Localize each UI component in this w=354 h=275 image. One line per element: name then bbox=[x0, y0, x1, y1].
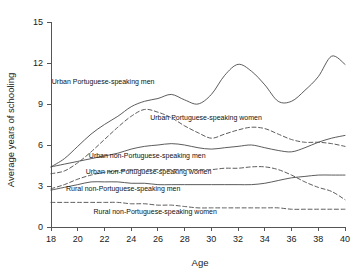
x-tick-label: 30 bbox=[206, 234, 216, 244]
chart-figure: 03691215 182022242628303234363840 Urban … bbox=[0, 0, 354, 275]
line-chart: 03691215 182022242628303234363840 Urban … bbox=[0, 0, 354, 275]
series-annotation-4: Rural non-Portuguese-speaking men bbox=[66, 185, 181, 193]
y-tick-label: 15 bbox=[33, 17, 43, 27]
x-tick-label: 38 bbox=[313, 234, 323, 244]
x-tick-label: 24 bbox=[126, 234, 136, 244]
y-axis-title: Average years of schooling bbox=[5, 73, 16, 187]
series-line-0 bbox=[51, 56, 345, 167]
x-tick-label: 22 bbox=[99, 234, 109, 244]
x-tick-label: 32 bbox=[233, 234, 243, 244]
x-tick-label: 26 bbox=[153, 234, 163, 244]
x-tick-label: 34 bbox=[260, 234, 270, 244]
y-tick-label: 0 bbox=[38, 222, 43, 232]
series-annotation-3: Urban non-Portuguese-speaking women bbox=[86, 168, 212, 176]
x-tick-label: 28 bbox=[180, 234, 190, 244]
x-tick-label: 20 bbox=[73, 234, 83, 244]
y-tick-label: 3 bbox=[38, 181, 43, 191]
y-tick-label: 9 bbox=[38, 99, 43, 109]
x-tick-label: 18 bbox=[46, 234, 56, 244]
series-annotation-2: Urban non-Portuguese-speaking men bbox=[89, 152, 206, 160]
x-tick-label: 36 bbox=[287, 234, 297, 244]
x-axis: 182022242628303234363840 bbox=[46, 227, 350, 244]
y-tick-label: 12 bbox=[33, 58, 43, 68]
y-axis: 03691215 bbox=[33, 17, 51, 232]
x-axis-title: Age bbox=[192, 257, 209, 268]
series-annotation-1: Urban Portuguese-speaking women bbox=[150, 114, 262, 122]
series-annotation-0: Urban Portuguese-speaking men bbox=[52, 78, 155, 86]
x-tick-label: 40 bbox=[340, 234, 350, 244]
y-tick-label: 6 bbox=[38, 140, 43, 150]
series-annotation-5: Rural non-Portuguese-speaking women bbox=[94, 208, 217, 216]
